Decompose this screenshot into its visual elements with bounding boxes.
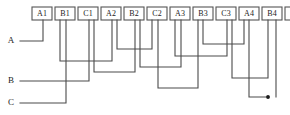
conductor-box-a2[interactable]: A2	[101, 7, 121, 20]
lead-a	[20, 20, 43, 41]
box-label: A2	[106, 9, 116, 18]
wire-c2-to-b3	[158, 20, 198, 88]
conductor-box-a4[interactable]: A4	[239, 7, 259, 20]
junction-right	[266, 95, 270, 99]
wire-a3-to-c3	[175, 20, 227, 56]
lead-b	[20, 20, 89, 81]
conductor-box-c1[interactable]: C1	[78, 7, 98, 20]
wires-layer	[20, 20, 276, 103]
conductor-box-c3[interactable]: C3	[216, 7, 236, 20]
box-label: C3	[221, 9, 230, 18]
conductor-box-b3[interactable]: B3	[193, 7, 213, 20]
conductor-box-b4[interactable]: B4	[262, 7, 282, 20]
phase-label-c: C	[8, 97, 14, 107]
box-label: B4	[267, 9, 276, 18]
box-outline	[285, 7, 290, 20]
conductor-box-b1[interactable]: B1	[55, 7, 75, 20]
box-label: C2	[152, 9, 161, 18]
box-label: A3	[175, 9, 185, 18]
junction-layer	[266, 95, 270, 99]
conductor-box-b2[interactable]: B2	[124, 7, 144, 20]
wire-b1-to-a2	[60, 20, 112, 61]
conductor-box-a1[interactable]: A1	[32, 7, 52, 20]
wire-a4-to-junction	[249, 20, 269, 97]
boxes-layer: A1B1C1A2B2C2A3B3C3A4B4C4	[32, 7, 290, 20]
box-label: C1	[83, 9, 92, 18]
box-label: B1	[60, 9, 69, 18]
phase-label-b: B	[8, 75, 14, 85]
wire-b3-to-a4	[203, 20, 244, 44]
phase-label-a: A	[8, 35, 15, 45]
transposition-diagram-root: A1B1C1A2B2C2A3B3C3A4B4C4 ABC	[0, 0, 290, 115]
box-label: B2	[129, 9, 138, 18]
box-label: A1	[37, 9, 47, 18]
wire-c3-to-b4	[232, 20, 268, 78]
diagram-canvas: A1B1C1A2B2C2A3B3C3A4B4C4 ABC	[0, 0, 290, 115]
box-label: B3	[198, 9, 207, 18]
conductor-box-a3[interactable]: A3	[170, 7, 190, 20]
conductor-box-c2[interactable]: C2	[147, 7, 167, 20]
conductor-box-c4[interactable]: C4	[285, 7, 290, 20]
wire-c1-to-b2	[94, 20, 135, 72]
phase-labels-layer: ABC	[8, 35, 15, 107]
box-label: A4	[244, 9, 254, 18]
